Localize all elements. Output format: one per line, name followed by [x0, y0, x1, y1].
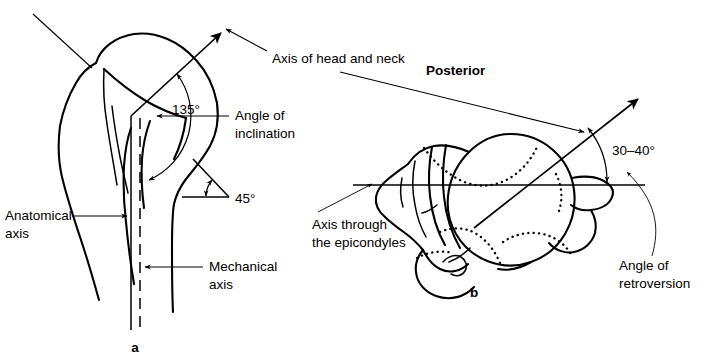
angle-retroversion-label-line2: retroversion — [619, 276, 690, 291]
panel-a-letter: a — [131, 340, 139, 355]
angle-inclination-value: 135° — [172, 102, 200, 117]
axis-head-neck-label: Axis of head and neck — [272, 51, 405, 66]
figure-root: 135° Angle of inclination 45° Anatomical… — [0, 0, 705, 364]
anatomical-axis-label-line2: axis — [5, 226, 29, 241]
epicondylar-axis-label-line2: the epicondyles — [312, 235, 406, 250]
mechanical-axis-label-line2: axis — [209, 277, 233, 292]
angle-retroversion-value: 30–40° — [612, 143, 655, 158]
angle-inclination-label-line2: inclination — [235, 126, 295, 141]
posterior-label: Posterior — [426, 63, 486, 78]
mechanical-axis-label-line1: Mechanical — [209, 259, 277, 274]
anatomical-axis-label-line1: Anatomical — [5, 208, 72, 223]
panel-b-letter: b — [470, 285, 478, 300]
angle-torsion-value: 45° — [235, 191, 255, 206]
angle-inclination-label-line1: Angle of — [235, 108, 285, 123]
humerus-axes-diagram: 135° Angle of inclination 45° Anatomical… — [0, 0, 705, 364]
angle-retroversion-label-line1: Angle of — [619, 258, 669, 273]
epicondylar-axis-label-line1: Axis through — [312, 217, 387, 232]
